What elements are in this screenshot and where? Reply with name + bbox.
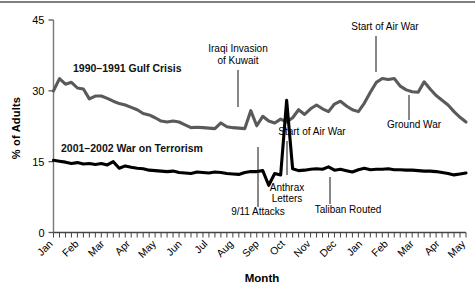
y-tick-label-0: 0 <box>38 227 44 239</box>
chart-container: 0153045 JanFebMarAprMayJunJulAugSepOctNo… <box>0 0 475 292</box>
attacks-911-text: 9/11 Attacks <box>231 206 285 217</box>
taliban-routed-text: Taliban Routed <box>315 204 382 215</box>
y-axis-title: % of Adults <box>10 97 22 159</box>
start-air-war-low-text: Start of Air War <box>278 126 346 137</box>
y-tick-label-30: 30 <box>32 85 44 97</box>
iraqi-invasion-line2: of Kuwait <box>217 55 258 66</box>
y-tick-label-45: 45 <box>32 14 44 26</box>
gulf-crisis-label: 1990–1991 Gulf Crisis <box>73 62 182 74</box>
iraqi-invasion-line1: Iraqi Invasion <box>208 43 267 54</box>
anthrax-line2: Letters <box>272 193 303 204</box>
war-on-terrorism-label: 2001–2002 War on Terrorism <box>61 142 203 154</box>
anthrax-line1: Anthrax <box>270 182 304 193</box>
y-tick-label-15: 15 <box>32 156 44 168</box>
ground-war-text: Ground War <box>387 119 442 130</box>
line-chart: 0153045 JanFebMarAprMayJunJulAugSepOctNo… <box>0 0 475 292</box>
annotation-anthrax-letters: Anthrax Letters <box>270 182 304 204</box>
x-axis-title: Month <box>245 272 279 284</box>
start-air-war-top-text: Start of Air War <box>351 21 419 32</box>
